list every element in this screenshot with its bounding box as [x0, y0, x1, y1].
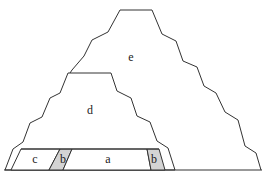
label-e: e [128, 50, 133, 64]
label-b-right: b [151, 152, 157, 166]
label-c: c [32, 152, 37, 166]
label-a: a [105, 152, 111, 166]
stepped-profile-diagram: e d c b a b [0, 0, 268, 177]
label-b-left: b [60, 152, 66, 166]
label-d: d [87, 103, 93, 117]
